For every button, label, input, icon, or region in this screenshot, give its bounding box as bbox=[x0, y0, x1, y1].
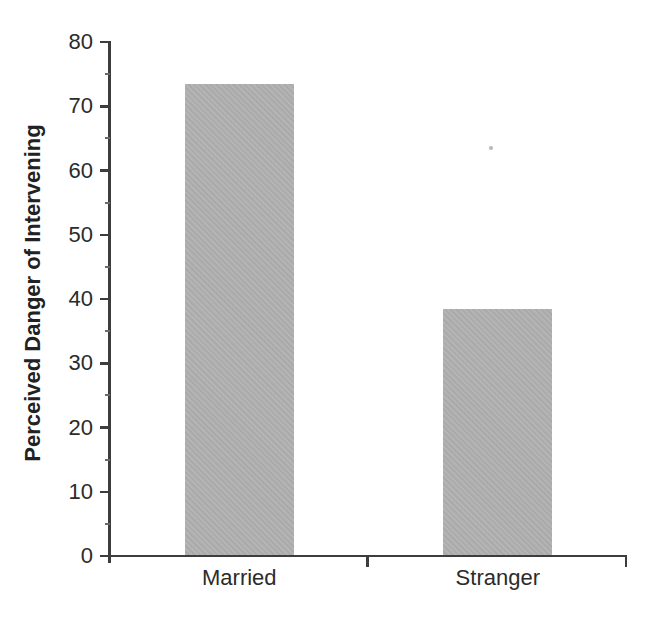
y-major-tick bbox=[100, 555, 110, 558]
y-tick-label: 20 bbox=[41, 415, 93, 441]
y-tick-label: 30 bbox=[41, 350, 93, 376]
y-major-tick bbox=[100, 426, 110, 429]
y-minor-tick bbox=[105, 202, 110, 204]
y-tick-label: 40 bbox=[41, 286, 93, 312]
y-major-tick bbox=[100, 105, 110, 108]
y-major-tick bbox=[100, 234, 110, 237]
y-major-tick bbox=[100, 491, 110, 494]
y-tick-label: 0 bbox=[41, 543, 93, 569]
y-major-tick bbox=[100, 298, 110, 301]
bar-chart-figure: Perceived Danger of Intervening 01020304… bbox=[0, 0, 651, 617]
scan-speck-dot bbox=[489, 146, 493, 150]
x-category-label: Stranger bbox=[398, 562, 598, 594]
y-major-tick bbox=[100, 41, 110, 44]
y-minor-tick bbox=[105, 459, 110, 461]
x-boundary-tick bbox=[625, 556, 628, 567]
y-minor-tick bbox=[105, 330, 110, 332]
y-major-tick bbox=[100, 169, 110, 172]
y-tick-label: 10 bbox=[41, 479, 93, 505]
y-minor-tick bbox=[105, 523, 110, 525]
y-minor-tick bbox=[105, 137, 110, 139]
x-category-label: Married bbox=[139, 562, 339, 594]
bar-stranger bbox=[443, 309, 552, 555]
bar-married bbox=[185, 84, 294, 555]
y-tick-label: 50 bbox=[41, 222, 93, 248]
y-tick-label: 80 bbox=[41, 29, 93, 55]
y-major-tick bbox=[100, 362, 110, 365]
y-minor-tick bbox=[105, 394, 110, 396]
y-tick-label: 60 bbox=[41, 158, 93, 184]
x-boundary-tick bbox=[366, 556, 369, 567]
y-minor-tick bbox=[105, 73, 110, 75]
y-axis-line bbox=[108, 41, 111, 563]
y-tick-label: 70 bbox=[41, 93, 93, 119]
y-minor-tick bbox=[105, 266, 110, 268]
